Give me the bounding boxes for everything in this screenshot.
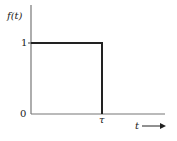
x-tick-label-tau: τ — [99, 115, 105, 125]
arrow-head-icon — [160, 123, 166, 129]
x-axis-label: t — [135, 121, 139, 131]
pulse-curve — [31, 43, 102, 114]
pulse-diagram — [0, 0, 177, 141]
y-tick-label-one: 1 — [21, 38, 27, 48]
y-tick-label-zero: 0 — [20, 109, 26, 119]
y-axis-label: f(t) — [7, 11, 23, 21]
